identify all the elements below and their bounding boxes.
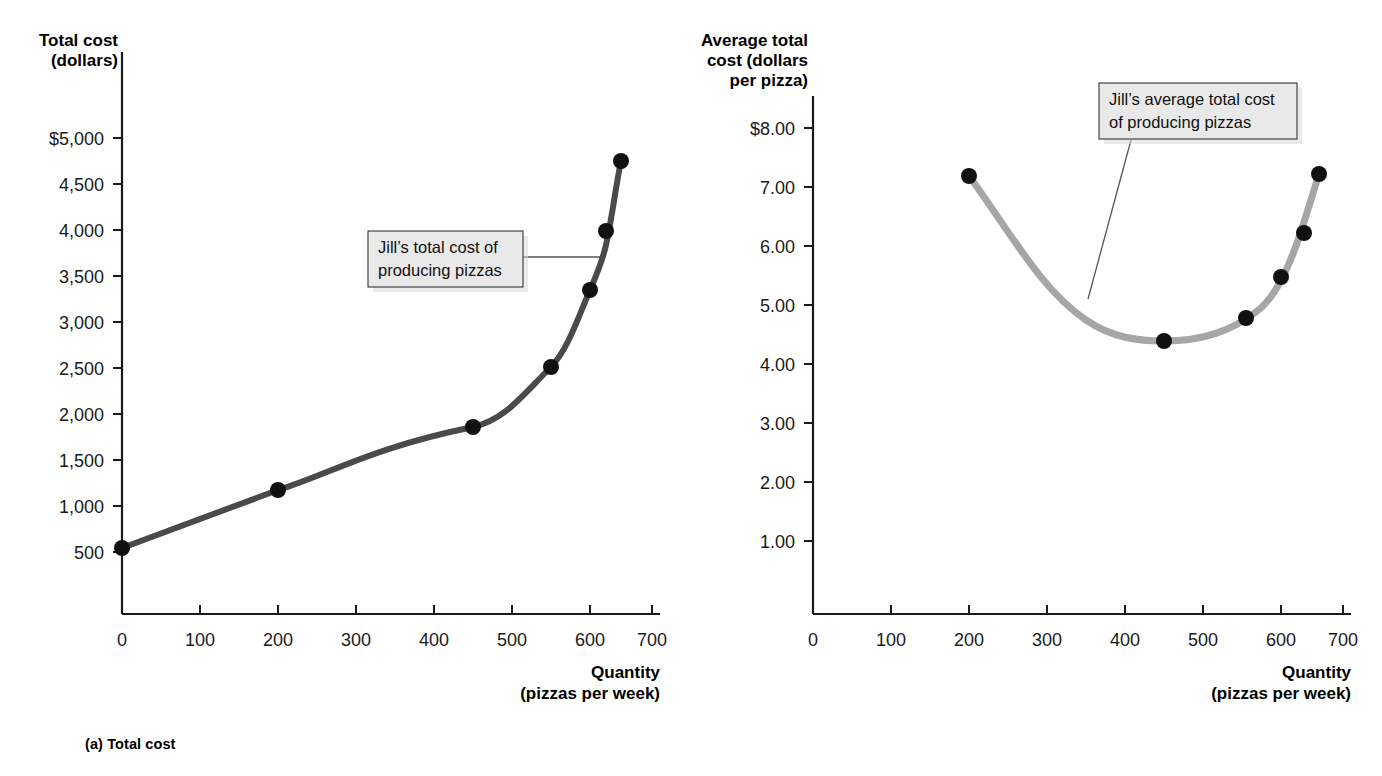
y-axis-title-line1: Average total xyxy=(701,31,808,50)
data-point xyxy=(543,359,559,375)
x-tick-label-500: 500 xyxy=(1188,630,1218,650)
y-tick-label-2500: 2,500 xyxy=(59,359,104,379)
y-tick-label-5: 5.00 xyxy=(760,296,795,316)
total-cost-data-points xyxy=(114,153,629,556)
y-tick-label-1500: 1,500 xyxy=(59,451,104,471)
callout-total-cost: Jill’s total cost of producing pizzas xyxy=(368,231,528,292)
y-tick-label-1000: 1,000 xyxy=(59,497,104,517)
y-tick-label-3: 3.00 xyxy=(760,414,795,434)
y-tick-label-4000: 4,000 xyxy=(59,221,104,241)
panel-total-cost: Total cost (dollars) $5,000 4,500 4,000 … xyxy=(0,0,691,776)
x-axis-title-line2: (pizzas per week) xyxy=(1211,684,1351,703)
x-axis-title-line1: Quantity xyxy=(591,663,660,682)
x-tick-label-700: 700 xyxy=(1328,630,1358,650)
y-tick-label-3000: 3,000 xyxy=(59,313,104,333)
data-point xyxy=(961,168,977,184)
x-tick-label-600: 600 xyxy=(1266,630,1296,650)
x-tick-label-600: 600 xyxy=(575,630,605,650)
x-tick-label-0: 0 xyxy=(117,630,127,650)
y-tick-label-6: 6.00 xyxy=(760,237,795,257)
callout-average-total-cost: Jill’s average total cost of producing p… xyxy=(1099,83,1302,144)
y-tick-label-4: 4.00 xyxy=(760,355,795,375)
y-axis-title-line2: cost (dollars xyxy=(707,51,808,70)
x-tick-label-400: 400 xyxy=(419,630,449,650)
y-tick-label-2: 2.00 xyxy=(760,473,795,493)
y-tick-label-7: 7.00 xyxy=(760,178,795,198)
x-tick-label-100: 100 xyxy=(185,630,215,650)
y-axis-ticks xyxy=(113,138,122,552)
x-tick-label-200: 200 xyxy=(954,630,984,650)
data-point xyxy=(613,153,629,169)
x-axis-ticks xyxy=(891,605,1343,614)
x-tick-label-0: 0 xyxy=(808,630,818,650)
y-tick-label-1: 1.00 xyxy=(760,532,795,552)
average-total-cost-data-points xyxy=(961,166,1327,349)
y-axis-ticks xyxy=(804,128,813,541)
x-tick-label-200: 200 xyxy=(263,630,293,650)
data-point xyxy=(1273,269,1289,285)
callout-line-1: Jill’s average total cost xyxy=(1109,90,1275,108)
x-axis-ticks xyxy=(200,605,652,614)
y-axis-title-line1: Total cost xyxy=(39,31,118,50)
x-tick-label-100: 100 xyxy=(876,630,906,650)
callout-leader-line xyxy=(1088,140,1131,299)
y-axis-title-line3: per pizza) xyxy=(730,71,808,90)
data-point xyxy=(465,419,481,435)
x-axis-title-line1: Quantity xyxy=(1282,663,1351,682)
x-tick-label-700: 700 xyxy=(637,630,667,650)
data-point xyxy=(270,482,286,498)
data-point xyxy=(1296,225,1312,241)
data-point xyxy=(114,540,130,556)
total-cost-curve xyxy=(122,161,621,548)
x-tick-label-300: 300 xyxy=(341,630,371,650)
panel-caption-a: (a) Total cost xyxy=(85,736,176,752)
callout-line-2: of producing pizzas xyxy=(1109,113,1251,131)
y-tick-label-500: 500 xyxy=(74,543,104,563)
x-tick-label-400: 400 xyxy=(1110,630,1140,650)
callout-line-1: Jill’s total cost of xyxy=(378,238,498,256)
x-axis-title-line2: (pizzas per week) xyxy=(520,684,660,703)
average-total-cost-curve xyxy=(969,174,1319,341)
data-point xyxy=(1238,310,1254,326)
y-tick-label-5000: $5,000 xyxy=(49,129,104,149)
data-point xyxy=(1311,166,1327,182)
data-point xyxy=(598,223,614,239)
chart-average-total-cost: Average total cost (dollars per pizza) $… xyxy=(691,0,1382,730)
panel-average-total-cost: Average total cost (dollars per pizza) $… xyxy=(691,0,1382,776)
x-tick-label-500: 500 xyxy=(497,630,527,650)
chart-total-cost: Total cost (dollars) $5,000 4,500 4,000 … xyxy=(0,0,691,730)
data-point xyxy=(582,282,598,298)
data-point xyxy=(1156,333,1172,349)
callout-line-2: producing pizzas xyxy=(378,261,502,279)
y-tick-label-8: $8.00 xyxy=(750,119,795,139)
y-tick-label-2000: 2,000 xyxy=(59,405,104,425)
y-tick-label-3500: 3,500 xyxy=(59,267,104,287)
x-tick-label-300: 300 xyxy=(1032,630,1062,650)
y-tick-label-4500: 4,500 xyxy=(59,175,104,195)
y-axis-title-line2: (dollars) xyxy=(51,51,118,70)
